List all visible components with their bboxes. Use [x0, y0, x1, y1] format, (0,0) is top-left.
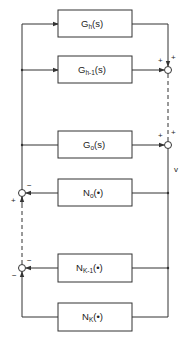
block-diagram: + + + + − + − − v Gh(s) Gh-1(s) Go(s) No…	[0, 0, 184, 342]
label-N0: No(•)	[83, 187, 103, 199]
sign-ru-top: +	[171, 53, 176, 62]
label-G0: Go(s)	[83, 139, 105, 151]
sum-junction-right-upper	[165, 67, 172, 74]
label-NK: NK(•)	[82, 311, 103, 323]
sign-lu-right: −	[27, 181, 32, 190]
signal-label-v: v	[174, 165, 178, 174]
sign-rl-top: +	[171, 128, 176, 137]
sum-junction-left-upper	[19, 190, 26, 197]
sum-junction-right-lower	[165, 142, 172, 149]
sign-rl-left: +	[158, 131, 163, 140]
sign-ru-left: +	[158, 56, 163, 65]
sign-ll-right: −	[27, 256, 32, 265]
sign-lu-bottom: +	[11, 196, 16, 205]
sum-junction-left-lower	[19, 265, 26, 272]
sign-ll-bottom: −	[12, 271, 17, 280]
label-Gh: Gh(s)	[81, 18, 103, 30]
